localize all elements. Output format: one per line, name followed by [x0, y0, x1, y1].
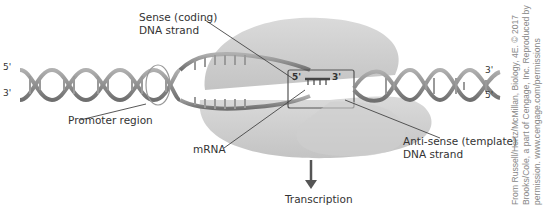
marker-box-right: 3'	[332, 72, 341, 82]
dna-double-helix-left	[20, 70, 180, 100]
label-sense-strand: Sense (coding) DNA strand	[139, 11, 217, 37]
marker-left-top: 5'	[3, 62, 11, 72]
label-promoter: Promoter region	[68, 114, 153, 127]
marker-right-top: 3'	[485, 65, 493, 75]
marker-right-bottom: 5'	[485, 90, 493, 100]
transcription-arrow	[305, 160, 317, 189]
label-antisense-strand: Anti-sense (template) DNA strand	[403, 135, 517, 161]
label-transcription: Transcription	[285, 193, 353, 206]
image-credit: From Russell/Hertz/McMillan, Biology, 4E…	[510, 5, 543, 205]
marker-box-left: 5'	[292, 72, 301, 82]
marker-left-bottom: 3'	[3, 88, 11, 98]
label-mrna: mRNA	[193, 143, 226, 156]
